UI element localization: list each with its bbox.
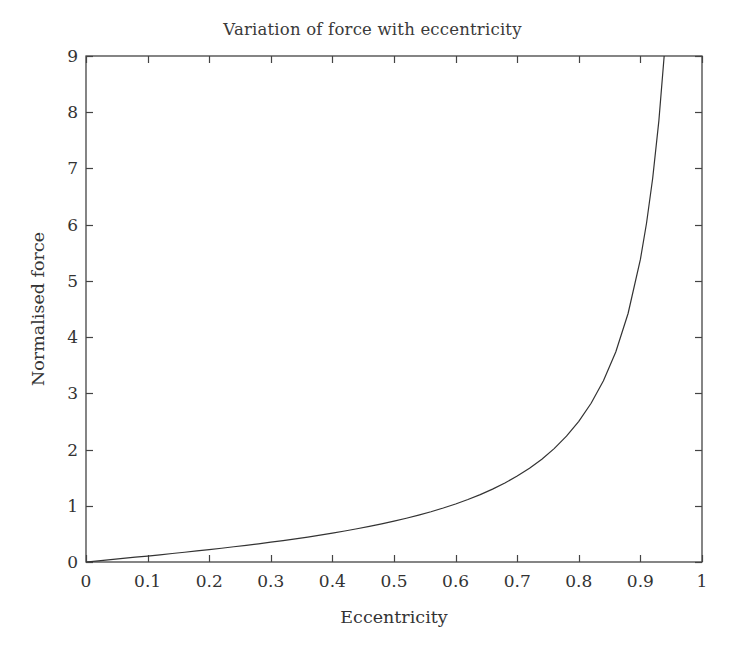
- y-axis-label: Normalised force: [28, 232, 48, 386]
- y-tick-label: 8: [58, 102, 78, 122]
- x-tick-label: 1: [697, 571, 708, 591]
- x-tick-label: 0.2: [196, 571, 223, 591]
- x-tick-label: 0.9: [627, 571, 654, 591]
- axis-ticks: [86, 56, 703, 563]
- y-tick-label: 6: [58, 215, 78, 235]
- x-tick-label: 0.3: [257, 571, 284, 591]
- chart-figure: Variation of force with eccentricity 00.…: [0, 0, 745, 647]
- x-tick-label: 0: [81, 571, 92, 591]
- x-tick-label: 0.4: [319, 571, 346, 591]
- x-tick-label: 0.7: [504, 571, 531, 591]
- x-tick-label: 0.8: [565, 571, 592, 591]
- plot-canvas: [0, 0, 745, 647]
- series-line-normalised-force: [86, 0, 696, 562]
- y-tick-label: 3: [58, 383, 78, 403]
- y-tick-label: 9: [58, 46, 78, 66]
- y-tick-label: 2: [58, 440, 78, 460]
- y-tick-label: 4: [58, 327, 78, 347]
- y-tick-label: 5: [58, 271, 78, 291]
- data-series-group: [86, 0, 696, 562]
- y-tick-label: 1: [58, 496, 78, 516]
- x-tick-label: 0.6: [442, 571, 469, 591]
- x-axis-label: Eccentricity: [86, 607, 702, 627]
- plot-frame: [86, 56, 702, 562]
- y-tick-label: 0: [58, 552, 78, 572]
- x-tick-label: 0.1: [134, 571, 161, 591]
- y-tick-label: 7: [58, 158, 78, 178]
- x-tick-label: 0.5: [380, 571, 407, 591]
